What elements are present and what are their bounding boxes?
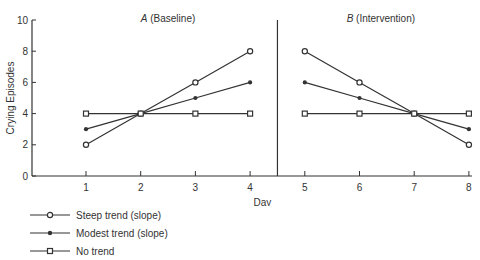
open-square-marker: [84, 111, 89, 116]
phase-title: A (Baseline): [140, 13, 195, 24]
open-circle-marker-icon: [30, 208, 70, 222]
open-circle-marker: [248, 49, 253, 54]
legend: Steep trend (slope) Modest trend (slope)…: [30, 206, 168, 260]
legend-item-steep: Steep trend (slope): [30, 206, 168, 224]
y-tick-label: 0: [22, 171, 28, 182]
open-square-marker: [466, 111, 471, 116]
x-tick-label: 7: [411, 182, 417, 193]
filled-circle-marker: [357, 96, 361, 100]
open-square-marker: [412, 111, 417, 116]
y-axis-label: Crying Episodes: [5, 62, 16, 135]
open-circle-marker: [83, 142, 88, 147]
legend-label: No trend: [76, 246, 114, 257]
x-tick-label: 5: [302, 182, 308, 193]
filled-circle-marker: [303, 80, 307, 84]
open-square-marker: [357, 111, 362, 116]
open-circle-marker: [466, 142, 471, 147]
legend-label: Steep trend (slope): [76, 210, 161, 221]
filled-circle-marker-icon: [30, 226, 70, 240]
series-line: [86, 82, 250, 129]
filled-circle-marker: [467, 127, 471, 131]
open-square-marker: [193, 111, 198, 116]
series-line: [305, 82, 469, 129]
legend-label: Modest trend (slope): [76, 228, 168, 239]
open-circle-marker: [302, 49, 307, 54]
legend-item-no-trend: No trend: [30, 242, 168, 260]
filled-circle-marker: [248, 80, 252, 84]
x-tick-label: 1: [83, 182, 89, 193]
filled-circle-marker: [193, 96, 197, 100]
y-tick-label: 8: [22, 46, 28, 57]
open-circle-marker: [357, 80, 362, 85]
x-tick-label: 8: [466, 182, 472, 193]
open-square-marker: [138, 111, 143, 116]
x-tick-label: 3: [193, 182, 199, 193]
open-square-marker: [302, 111, 307, 116]
x-tick-label: 4: [247, 182, 253, 193]
open-square-marker: [248, 111, 253, 116]
series-line: [305, 51, 469, 145]
x-axis-label: Day: [254, 197, 272, 206]
series-line: [86, 51, 250, 145]
line-chart: 024681012345678DayCrying EpisodesA (Base…: [0, 0, 480, 206]
phase-title: B (Intervention): [347, 13, 415, 24]
open-circle-marker: [193, 80, 198, 85]
filled-circle-marker: [84, 127, 88, 131]
legend-item-modest: Modest trend (slope): [30, 224, 168, 242]
x-tick-label: 6: [357, 182, 363, 193]
y-tick-label: 2: [22, 139, 28, 150]
x-tick-label: 2: [138, 182, 144, 193]
y-tick-label: 6: [22, 77, 28, 88]
open-square-marker-icon: [30, 244, 70, 258]
y-tick-label: 10: [17, 15, 29, 26]
y-tick-label: 4: [22, 108, 28, 119]
